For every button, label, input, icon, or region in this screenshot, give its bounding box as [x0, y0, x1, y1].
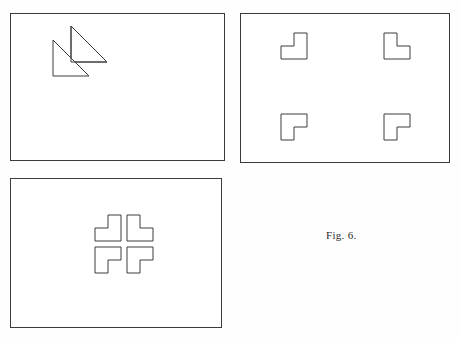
panel-3-canvas	[11, 179, 221, 327]
l-shape-bottom-right-icon	[384, 114, 410, 140]
figure-page: Fig. 6.	[0, 0, 460, 339]
l-shape-bottom-right-icon	[127, 247, 153, 273]
panel-1-canvas	[11, 14, 224, 160]
panel-dispersed-l-shapes	[240, 13, 450, 163]
l-shape-bottom-left-icon	[95, 247, 121, 273]
l-shape-bottom-left-icon	[281, 114, 307, 140]
l-shape-top-left-icon	[95, 215, 121, 241]
figure-caption: Fig. 6.	[326, 229, 357, 241]
l-shape-top-left-icon	[281, 33, 307, 59]
panel-grouped-l-shapes	[10, 178, 222, 328]
panel-overlapping-triangles	[10, 13, 225, 161]
panel-2-canvas	[241, 14, 449, 162]
l-shape-top-right-icon	[384, 33, 410, 59]
l-shape-top-right-icon	[127, 215, 153, 241]
